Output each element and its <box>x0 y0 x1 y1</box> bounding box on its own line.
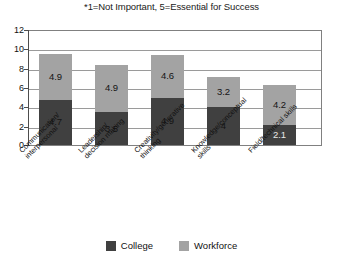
y-tick-label-4: 4 <box>4 103 24 112</box>
bar-value-workforce: 4.6 <box>151 71 184 81</box>
y-tick-mark-2 <box>24 127 28 128</box>
bar-segment-workforce[interactable]: 4.9 <box>95 65 128 112</box>
y-tick-label-2: 2 <box>4 123 24 132</box>
y-tick-label-10: 10 <box>4 45 24 54</box>
y-tick-mark-10 <box>24 49 28 50</box>
legend-swatch-workforce <box>179 241 189 251</box>
gridline-10 <box>29 50 321 51</box>
legend-label-college: College <box>121 241 153 251</box>
bar-value-workforce: 4.9 <box>39 72 72 82</box>
bar-segment-workforce[interactable]: 4.9 <box>39 54 72 101</box>
bar-segment-workforce[interactable]: 4.6 <box>151 55 184 99</box>
y-tick-mark-8 <box>24 69 28 70</box>
legend-item-college[interactable]: College <box>106 241 153 251</box>
bar-value-workforce: 3.2 <box>207 87 240 97</box>
y-tick-label-6: 6 <box>4 84 24 93</box>
y-axis-line <box>28 30 29 146</box>
legend-item-workforce[interactable]: Workforce <box>179 241 237 251</box>
chart-title: *1=Not Important, 5=Essential for Succes… <box>0 1 343 12</box>
y-tick-mark-6 <box>24 88 28 89</box>
y-tick-mark-4 <box>24 107 28 108</box>
legend-swatch-college <box>106 241 116 251</box>
bar-value-workforce: 4.9 <box>95 83 128 93</box>
y-tick-mark-12 <box>24 30 28 31</box>
chart-legend: College Workforce <box>0 241 343 251</box>
y-tick-label-8: 8 <box>4 65 24 74</box>
y-tick-label-12: 12 <box>4 26 24 35</box>
legend-label-workforce: Workforce <box>194 241 237 251</box>
y-axis: 12 10 8 6 4 2 0 <box>0 0 24 264</box>
